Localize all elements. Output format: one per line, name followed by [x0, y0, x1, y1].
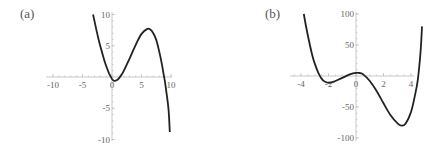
y-tick-label: -100 [338, 133, 355, 143]
x-tick-label: 2 [381, 79, 386, 89]
y-tick-label: 50 [345, 40, 355, 50]
x-tick-label: -4 [297, 79, 305, 89]
plot-a: -10-50510-10-5510 [0, 0, 220, 149]
x-tick-label: -5 [79, 80, 87, 90]
plot-b: -4-2024-100-5050100 [220, 0, 439, 149]
y-tick-label: -5 [103, 103, 111, 113]
x-tick-label: 5 [139, 80, 144, 90]
x-tick-label: -2 [325, 79, 333, 89]
x-tick-label: 4 [409, 79, 414, 89]
x-tick-label: 0 [354, 79, 359, 89]
x-tick-label: -10 [47, 80, 59, 90]
function-curve [304, 14, 422, 126]
y-tick-label: 5 [106, 41, 111, 51]
chart-panel-b: (b) -4-2024-100-5050100 [220, 0, 439, 149]
function-curve [93, 15, 170, 133]
y-tick-label: 100 [341, 9, 355, 19]
y-tick-label: -50 [342, 102, 354, 112]
y-tick-label: -10 [98, 135, 110, 145]
y-tick-label: 10 [101, 10, 111, 20]
chart-panel-a: (a) -10-50510-10-5510 [0, 0, 220, 149]
x-tick-label: 10 [167, 80, 177, 90]
